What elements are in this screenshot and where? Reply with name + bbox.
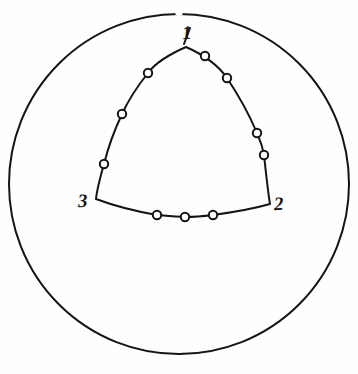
data-point-marker [209,211,217,219]
data-point-markers [100,52,268,221]
data-point-marker [100,160,108,168]
data-point-marker [153,211,161,219]
vertex-label-1: 1 [181,23,192,43]
curvilinear-triangle-outline [96,47,270,217]
data-point-marker [144,69,152,77]
data-point-marker [260,151,268,159]
data-point-marker [253,129,261,137]
data-point-marker [201,52,209,60]
vertex-label-2: 2 [274,194,284,213]
data-point-marker [181,213,189,221]
vertex-label-3: 3 [78,191,88,210]
data-point-marker [118,110,126,118]
figure-container: 1 2 3 [0,0,358,374]
outer-circle [9,14,349,354]
circle-top-gap [176,10,183,15]
outer-circle-group [9,10,349,354]
data-point-marker [223,74,231,82]
figure-drawing [0,0,358,374]
